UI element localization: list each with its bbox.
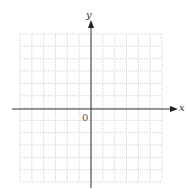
x-axis-label: x: [179, 103, 185, 113]
coordinate-plane: [0, 0, 187, 189]
y-axis-arrow-icon: [88, 20, 94, 28]
origin-label: 0: [82, 113, 88, 123]
y-axis-label: y: [86, 10, 92, 20]
x-axis-arrow-icon: [170, 106, 178, 112]
